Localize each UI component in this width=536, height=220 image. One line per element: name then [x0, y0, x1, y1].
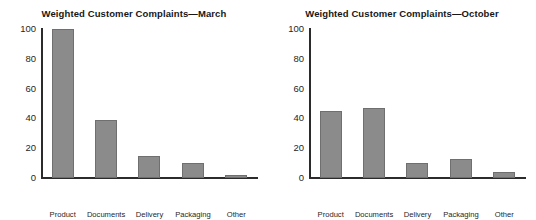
plot-area-march: 100 80 60 40 20 0 Productquality Documen… [41, 29, 258, 178]
bar-slot [128, 29, 171, 178]
bar-delivery[interactable] [406, 163, 428, 178]
y-tick-label: 40 [25, 114, 36, 124]
bar-slot [439, 29, 482, 178]
bar-slot [41, 29, 84, 178]
x-tick-label-other: Other [215, 210, 258, 219]
bar-other[interactable] [493, 172, 515, 178]
x-tick-label-other: Other [483, 210, 526, 219]
figure-two-bar-charts: Weighted Customer Complaints—March 100 8… [0, 0, 536, 220]
bar-packaging[interactable] [450, 159, 472, 178]
y-tick-label: 60 [293, 84, 304, 94]
bar-packaging[interactable] [182, 163, 204, 178]
chart-panel-march: Weighted Customer Complaints—March 100 8… [0, 0, 268, 220]
bar-slot [309, 29, 352, 178]
bar-documents[interactable] [95, 120, 117, 178]
y-tick-label: 40 [293, 114, 304, 124]
x-tick-label-documents: Documents [84, 210, 127, 219]
y-tick-label: 100 [288, 24, 304, 34]
bar-group-march [41, 29, 258, 178]
bar-documents[interactable] [363, 108, 385, 178]
x-tick-label-product-quality: Productquality [309, 210, 352, 220]
x-tick-label-product-quality: Productquality [41, 210, 84, 220]
y-tick-label: 60 [25, 84, 36, 94]
bar-product-quality[interactable] [320, 111, 342, 178]
bar-slot [215, 29, 258, 178]
y-tick-label: 80 [25, 54, 36, 64]
bar-slot [171, 29, 214, 178]
x-tick-label-documents: Documents [352, 210, 395, 219]
x-tick-label-delivery: Delivery [396, 210, 439, 219]
bar-slot [396, 29, 439, 178]
bar-product-quality[interactable] [52, 29, 74, 178]
bar-slot [483, 29, 526, 178]
bar-delivery[interactable] [138, 156, 160, 178]
x-tick-label-packaging: Packaging [171, 210, 214, 219]
bar-other[interactable] [225, 175, 247, 178]
y-tick-label: 0 [299, 173, 304, 183]
y-tick-label: 20 [293, 143, 304, 153]
y-tick-label: 20 [25, 143, 36, 153]
plot-area-october: 100 80 60 40 20 0 Productquality Documen… [309, 29, 526, 178]
chart-title-march: Weighted Customer Complaints—March [0, 8, 268, 19]
bar-slot [84, 29, 127, 178]
chart-title-october: Weighted Customer Complaints—October [268, 8, 536, 19]
x-tick-label-delivery: Delivery [128, 210, 171, 219]
y-tick-label: 80 [293, 54, 304, 64]
chart-panel-october: Weighted Customer Complaints—October 100… [268, 0, 536, 220]
y-tick-label: 0 [31, 173, 36, 183]
bar-slot [352, 29, 395, 178]
y-tick-label: 100 [20, 24, 36, 34]
x-tick-label-packaging: Packaging [439, 210, 482, 219]
bar-group-october [309, 29, 526, 178]
